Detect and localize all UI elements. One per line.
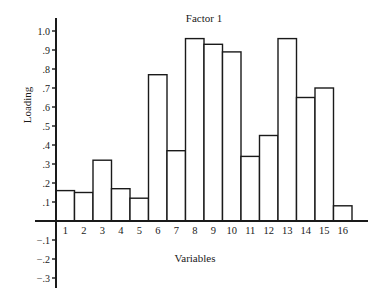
y-tick-label: .6: [43, 102, 51, 113]
bar-variable-12: [260, 136, 279, 222]
x-tick-label: 12: [264, 225, 275, 236]
y-tick-label: −.2: [37, 254, 50, 265]
y-tick-label: .7: [43, 83, 51, 94]
x-tick-label: 7: [174, 225, 179, 236]
y-axis-ticks: 1.0.9.8.7.6.5.4.3.2.1−.1−.2−.3: [37, 26, 56, 284]
x-tick-label: 13: [282, 225, 293, 236]
bar-variable-15: [315, 88, 334, 221]
bar-variable-8: [186, 39, 205, 221]
y-tick-label: .5: [43, 121, 51, 132]
x-tick-label: 16: [338, 225, 349, 236]
x-tick-label: 4: [118, 225, 124, 236]
x-tick-label: 14: [301, 225, 312, 236]
y-tick-label: −.1: [37, 235, 50, 246]
bars-group: [56, 39, 352, 221]
bar-variable-10: [223, 52, 242, 221]
x-tick-label: 5: [137, 225, 142, 236]
x-axis-tick-labels: 12345678910111213141516: [63, 225, 348, 236]
y-tick-label: .4: [43, 140, 51, 151]
y-axis-title: Loading: [21, 86, 33, 123]
bar-variable-2: [75, 193, 94, 222]
bar-variable-11: [241, 156, 260, 221]
factor-loading-bar-chart: Factor 1 Loading Variables 1.0.9.8.7.6.5…: [0, 0, 388, 306]
bar-variable-4: [112, 189, 131, 221]
y-tick-label: .1: [43, 197, 51, 208]
y-tick-label: .9: [43, 45, 51, 56]
x-tick-label: 11: [245, 225, 255, 236]
x-tick-label: 2: [81, 225, 86, 236]
bar-variable-5: [130, 198, 149, 221]
y-tick-label: 1.0: [38, 26, 51, 37]
bar-variable-1: [56, 191, 75, 221]
chart-title: Factor 1: [186, 12, 222, 24]
bar-variable-13: [278, 39, 297, 221]
bar-variable-14: [297, 98, 316, 222]
x-tick-label: 6: [155, 225, 160, 236]
x-tick-label: 8: [192, 225, 197, 236]
y-tick-label: .3: [43, 159, 51, 170]
bar-variable-7: [167, 151, 186, 221]
bar-variable-16: [334, 206, 353, 221]
bar-variable-9: [204, 44, 223, 221]
x-tick-label: 3: [100, 225, 105, 236]
bar-variable-6: [149, 75, 168, 221]
y-tick-label: .8: [43, 64, 51, 75]
x-axis-title: Variables: [175, 252, 216, 264]
x-tick-label: 1: [63, 225, 68, 236]
x-tick-label: 9: [211, 225, 216, 236]
y-tick-label: −.3: [37, 273, 50, 284]
x-tick-label: 10: [227, 225, 238, 236]
bar-variable-3: [93, 160, 112, 221]
y-tick-label: .2: [43, 178, 51, 189]
x-tick-label: 15: [319, 225, 330, 236]
